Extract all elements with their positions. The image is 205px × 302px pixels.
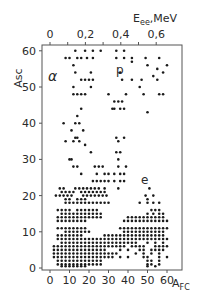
data-point <box>96 209 99 212</box>
data-point <box>99 241 102 244</box>
tick-label: 50 <box>141 274 155 287</box>
data-point <box>96 212 99 215</box>
data-point <box>84 212 87 215</box>
data-point <box>127 231 130 234</box>
data-point <box>158 234 161 237</box>
data-point <box>92 263 95 266</box>
data-point <box>166 245 169 248</box>
data-point <box>76 238 79 241</box>
data-point <box>57 245 60 248</box>
data-point <box>158 256 161 259</box>
data-point <box>90 151 93 154</box>
data-point <box>117 100 120 103</box>
data-point <box>76 245 79 248</box>
data-point <box>86 57 89 60</box>
data-point <box>72 231 75 234</box>
tick-label: 10 <box>22 226 36 239</box>
data-point <box>98 165 101 168</box>
data-point <box>158 252 161 255</box>
data-point <box>80 245 83 248</box>
data-point <box>152 212 155 215</box>
data-point <box>119 238 122 241</box>
data-point <box>88 245 91 248</box>
data-point <box>154 234 157 237</box>
data-point <box>103 173 106 176</box>
data-point <box>131 234 134 237</box>
data-point <box>53 245 56 248</box>
data-point <box>99 50 102 53</box>
data-point <box>111 107 114 110</box>
data-point <box>158 227 161 230</box>
data-point <box>162 234 165 237</box>
data-point <box>80 191 83 194</box>
data-point <box>111 245 114 248</box>
data-point <box>125 165 128 168</box>
data-point <box>103 245 106 248</box>
data-point <box>72 238 75 241</box>
data-point <box>150 238 153 241</box>
data-point <box>88 202 91 205</box>
data-point <box>99 249 102 252</box>
data-point <box>138 231 141 234</box>
data-point <box>150 252 153 255</box>
data-point <box>127 241 130 244</box>
data-point <box>123 180 126 183</box>
data-point <box>138 249 141 252</box>
tick-label: 0,6 <box>147 28 165 41</box>
data-point <box>103 234 106 237</box>
data-point <box>68 198 71 201</box>
data-point <box>80 198 83 201</box>
data-point <box>158 57 161 60</box>
data-point <box>72 245 75 248</box>
data-point <box>84 144 87 147</box>
data-point <box>103 191 106 194</box>
data-point <box>146 234 149 237</box>
data-point <box>76 202 79 205</box>
data-point <box>162 241 165 244</box>
data-point <box>78 187 81 190</box>
data-point <box>152 194 155 197</box>
data-point <box>158 209 161 212</box>
data-point <box>113 173 116 176</box>
data-point <box>72 165 75 168</box>
data-point <box>64 265 67 268</box>
data-point <box>64 234 67 237</box>
data-point <box>115 252 118 255</box>
data-point <box>123 57 126 60</box>
data-point <box>99 256 102 259</box>
data-point <box>74 122 77 125</box>
data-point <box>60 216 63 219</box>
tick-label: 30 <box>102 274 116 287</box>
data-point <box>88 263 91 266</box>
data-point <box>84 209 87 212</box>
data-point <box>131 79 134 82</box>
data-point <box>68 216 71 219</box>
data-point <box>68 234 71 237</box>
data-point <box>80 256 83 259</box>
data-point <box>142 216 145 219</box>
data-point <box>68 249 71 252</box>
data-point <box>158 238 161 241</box>
data-point <box>84 238 87 241</box>
data-point <box>74 71 77 74</box>
data-point <box>76 115 79 118</box>
data-point <box>154 227 157 230</box>
data-point <box>162 71 165 74</box>
data-point <box>154 265 157 268</box>
data-point <box>138 202 141 205</box>
data-point <box>53 249 56 252</box>
tick-label: 0 <box>47 28 54 41</box>
data-point <box>99 180 102 183</box>
data-point <box>150 231 153 234</box>
data-point <box>68 191 71 194</box>
data-point <box>76 265 79 268</box>
data-point <box>123 234 126 237</box>
data-point <box>125 93 128 96</box>
data-point <box>138 86 141 89</box>
data-point <box>99 245 102 248</box>
data-point <box>123 107 126 110</box>
data-point <box>103 238 106 241</box>
data-point <box>84 260 87 263</box>
data-point <box>88 212 91 215</box>
data-point <box>76 136 79 139</box>
